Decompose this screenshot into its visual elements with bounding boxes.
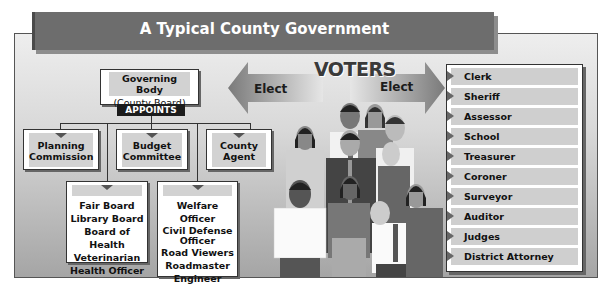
- officer-item: Road Viewers: [158, 246, 237, 259]
- pointer-arrow-icon: [447, 231, 454, 241]
- pointer-arrow-icon: [447, 211, 454, 221]
- card-label: Committee: [122, 151, 182, 162]
- voters-illustration-icon: [268, 88, 443, 277]
- pointer-arrow-icon: [447, 71, 454, 81]
- card-label: Agent: [212, 151, 266, 162]
- pointer-arrow-icon: [447, 151, 454, 161]
- budget-committee-card: Budget Committee: [116, 129, 188, 170]
- pointer-arrow-icon: [447, 131, 454, 141]
- elected-item-sheriff: Sheriff: [451, 88, 578, 105]
- governing-body-box: Governing Body (County Board): [100, 69, 199, 105]
- card-label: Commission: [29, 151, 93, 162]
- diagram-title: A Typical County Government: [35, 20, 494, 38]
- elected-item-surveyor: Surveyor: [451, 188, 578, 205]
- connector: [60, 123, 251, 124]
- connector: [107, 123, 108, 181]
- pointer-arrow-icon: [447, 251, 454, 261]
- planning-commission-card: Planning Commission: [23, 129, 99, 170]
- elected-item-assessor: Assessor: [451, 108, 578, 125]
- elected-item-school-superintendent: School Superintendent: [451, 128, 578, 145]
- pointer-arrow-icon: [447, 111, 454, 121]
- board-item: Library Board: [67, 212, 147, 225]
- officer-item: Welfare Officer: [158, 199, 237, 225]
- elected-item-coroner: Coroner: [451, 168, 578, 185]
- appoints-label: APPOINTS: [117, 104, 185, 116]
- board-item: Board of Health: [67, 225, 147, 251]
- pointer-arrow-icon: [447, 171, 454, 181]
- elected-item-treasurer: Treasurer: [451, 148, 578, 165]
- elected-item-clerk: Clerk: [451, 68, 578, 85]
- board-item: Veterinarian: [67, 251, 147, 264]
- elected-item-district-attorney: District Attorney: [451, 248, 578, 265]
- pointer-arrow-icon: [447, 191, 454, 201]
- officer-item: Engineer: [158, 272, 237, 285]
- elected-item-auditor: Auditor: [451, 208, 578, 225]
- elected-officials-list: Clerk Sheriff Assessor School Superinten…: [446, 64, 583, 272]
- pointer-arrow-icon: [447, 91, 454, 101]
- county-agent-card: County Agent: [206, 129, 272, 170]
- card-label: County: [212, 140, 266, 151]
- board-item: Health Officer: [67, 264, 147, 277]
- governing-body-label: Governing Body: [109, 72, 190, 96]
- boards-card: Fair Board Library Board Board of Health…: [66, 181, 148, 263]
- officers-card: Welfare Officer Civil Defense Officer Ro…: [157, 181, 238, 277]
- title-bar: A Typical County Government: [32, 12, 494, 50]
- connector: [197, 123, 198, 181]
- elected-item-judges: Judges: [451, 228, 578, 245]
- card-label: Planning: [29, 140, 93, 151]
- officer-item: Officer: [158, 236, 237, 246]
- board-item: Fair Board: [67, 199, 147, 212]
- officer-item: Roadmaster: [158, 259, 237, 272]
- card-label: Budget: [122, 140, 182, 151]
- voters-label: VOTERS: [314, 58, 396, 80]
